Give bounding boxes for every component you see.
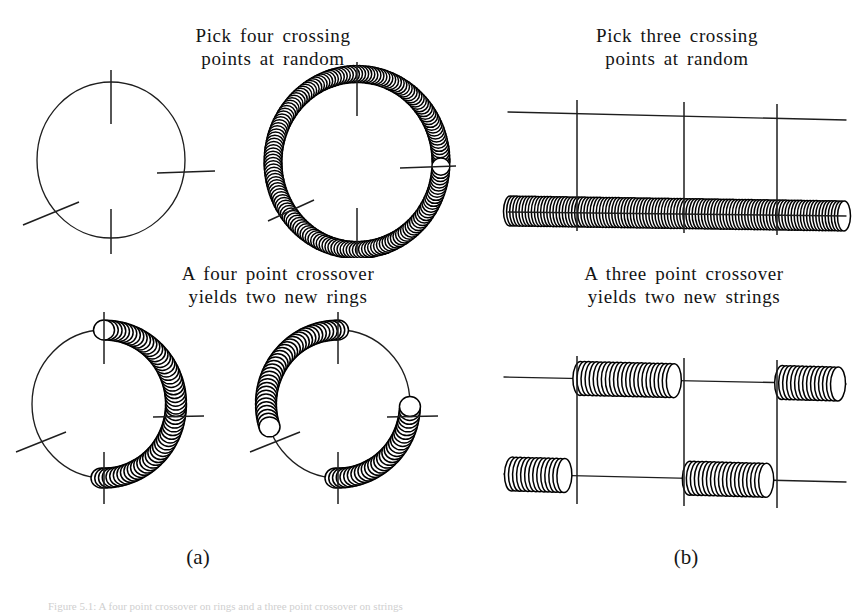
panel-a-offspring-ring-2 (242, 312, 457, 507)
panel-a-bottom-caption: A four point crossover yields two new ri… (118, 262, 438, 308)
panel-a-offspring-ring-1 (8, 312, 223, 507)
panel-b-label: (b) (656, 545, 716, 570)
panel-a-parent-beaded-ring (256, 58, 476, 258)
panel-b-offspring-strings (486, 330, 858, 510)
panel-b-parents-strings (486, 78, 858, 253)
panel-b-top-caption: Pick three crossing points at random (532, 24, 822, 70)
figure-bottom-caption: Figure 5.1: A four point crossover on ri… (48, 600, 518, 612)
panel-a-parent-thin-ring (18, 62, 228, 257)
panel-b-bottom-caption: A three point crossover yields two new s… (524, 262, 844, 308)
figure-root: Pick four crossing points at random A fo… (0, 0, 858, 612)
panel-a-label: (a) (168, 545, 228, 570)
